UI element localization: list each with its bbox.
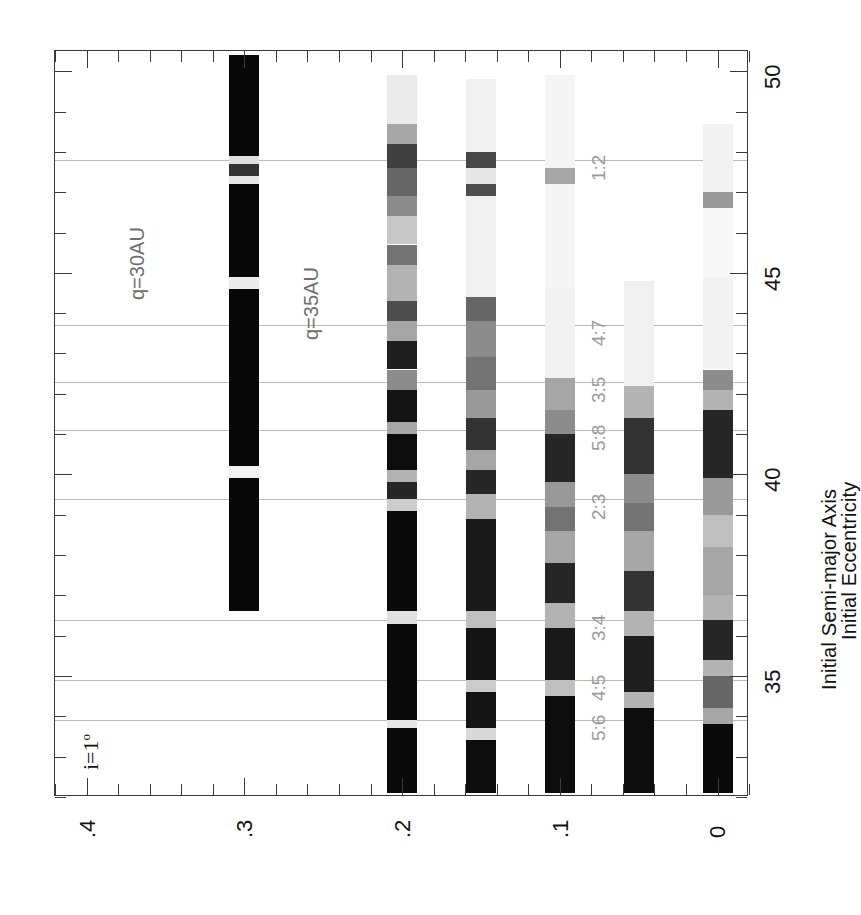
tick-mark [371,51,372,62]
band-segment [387,321,417,341]
resonance-label-4-5: 4:5 [588,675,610,701]
tick-mark [244,51,245,68]
tick-mark [434,784,435,795]
tick-mark [402,778,403,795]
tick-mark [591,784,592,795]
band-segment [466,728,496,740]
tick-mark [55,394,66,395]
band-segment [466,692,496,728]
band-segment [387,470,417,482]
inclination-annotation: i=1o [78,734,104,770]
band-segment [229,289,259,466]
tick-mark [150,784,151,795]
band-segment [624,571,654,611]
band-segment [545,531,575,563]
band-segment [545,482,575,506]
tick-mark [528,784,529,795]
eccentricity-band [466,79,496,793]
q-curve-label-q35au: q=35AU [300,267,323,340]
band-segment [387,341,417,369]
eccentricity-band [387,75,417,793]
tick-mark [736,192,747,193]
x-tick-label-p4: .4 [75,820,101,838]
tick-mark [465,784,466,795]
tick-mark [654,51,655,62]
tick-mark [736,515,747,516]
tick-mark [55,152,66,153]
x-axis-title: Initial Eccentricity [838,482,861,641]
band-segment [545,603,575,627]
band-segment [466,357,496,389]
band-segment [387,720,417,728]
band-segment [229,156,259,164]
tick-mark [55,716,66,717]
tick-mark [339,784,340,795]
band-segment [545,680,575,696]
band-segment [703,660,733,676]
eccentricity-band [229,55,259,612]
band-segment [624,636,654,693]
resonance-label-1-2: 1:2 [588,154,610,180]
band-segment [703,515,733,547]
band-segment [466,297,496,321]
inclination-text: i=1 [78,740,103,770]
tick-mark [55,636,66,637]
resonance-label-3-4: 3:4 [588,614,610,640]
band-segment [387,265,417,301]
band-segment [545,168,575,184]
band-segment [703,676,733,708]
resonance-label-5-6: 5:6 [588,715,610,741]
tick-mark [718,778,719,795]
band-segment [624,503,654,531]
band-segment [387,370,417,390]
tick-mark [55,192,66,193]
tick-mark [749,51,750,62]
band-segment [545,434,575,482]
band-segment [229,164,259,176]
resonance-label-3-5: 3:5 [588,376,610,402]
band-segment [387,301,417,321]
band-segment [466,184,496,196]
tick-mark [736,353,747,354]
band-segment [703,620,733,660]
band-segment [387,196,417,216]
tick-mark [55,233,66,234]
tick-mark [87,51,88,68]
x-tick-label-p1: .1 [548,820,574,838]
band-segment [703,708,733,724]
degree-symbol: o [78,734,93,741]
band-segment [703,277,733,370]
q-curve-label-q30au: q=30AU [126,227,149,300]
tick-mark [497,51,498,62]
band-segment [703,124,733,193]
band-segment [624,708,654,793]
tick-mark [654,784,655,795]
band-segment [703,478,733,514]
tick-mark [276,784,277,795]
tick-mark [591,51,592,62]
band-segment [387,144,417,168]
band-segment [624,692,654,708]
tick-mark [623,51,624,62]
tick-mark [87,778,88,795]
band-segment [624,281,654,386]
band-segment [229,55,259,156]
tick-mark [718,51,719,68]
band-segment [466,152,496,168]
band-segment [387,434,417,470]
tick-mark [55,474,72,475]
band-segment [229,277,259,289]
band-segment [387,75,417,123]
tick-mark [55,51,56,62]
band-segment [387,168,417,196]
y-axis-title: Initial Semi-major Axis [818,489,841,690]
tick-mark [118,51,119,62]
band-segment [624,531,654,571]
band-segment [624,474,654,502]
x-tick-label-p2: .2 [390,820,416,838]
tick-mark [686,784,687,795]
tick-mark [736,757,747,758]
band-segment [466,390,496,418]
band-segment [703,547,733,595]
band-segment [466,519,496,612]
